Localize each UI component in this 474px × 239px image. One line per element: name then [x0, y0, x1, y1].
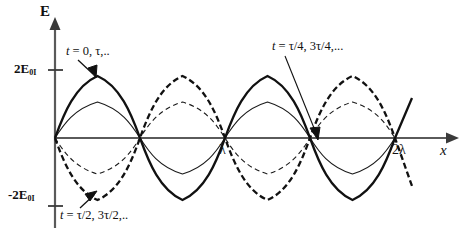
- y-axis: [50, 17, 61, 228]
- wave-plot-canvas: [0, 0, 474, 239]
- annotation-arrows: [78, 56, 320, 208]
- standing-wave-figure: E x 2E0I -2E0I λ 2λ t = 0, τ,.. t = τ/2,…: [0, 0, 474, 239]
- annotation-t-zero: t = 0, τ,..: [66, 45, 110, 58]
- y-tick-label-negative: -2E0I: [8, 188, 35, 203]
- y-axis-arrowhead: [50, 17, 61, 30]
- annotation-t-quarter: t = τ/4, 3τ/4,...: [272, 40, 343, 53]
- x-tick-label-lambda: λ: [219, 143, 226, 157]
- x-tick-label-two-lambda: 2λ: [392, 143, 406, 157]
- y-axis-label: E: [40, 4, 50, 19]
- x-axis-label: x: [440, 143, 447, 158]
- annotation-t-half: t = τ/2, 3τ/2,..: [60, 209, 128, 222]
- x-axis-arrowhead: [446, 133, 459, 144]
- y-tick-label-positive: 2E0I: [14, 62, 36, 77]
